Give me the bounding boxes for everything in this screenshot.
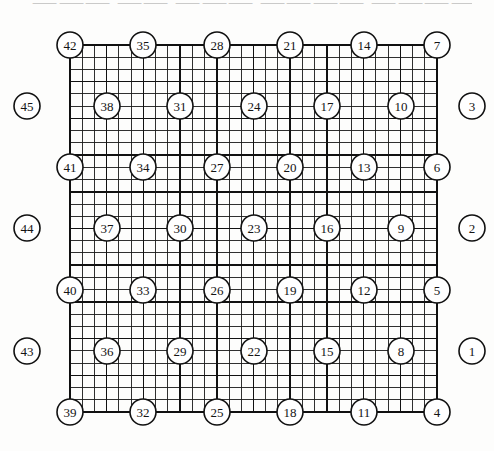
node-circle-11[interactable]: 11 bbox=[351, 399, 377, 425]
node-circle-label: 24 bbox=[248, 99, 262, 114]
node-circle-30[interactable]: 30 bbox=[167, 215, 193, 241]
node-circle-label: 18 bbox=[284, 405, 297, 420]
node-circle-18[interactable]: 18 bbox=[277, 399, 303, 425]
node-circle-33[interactable]: 33 bbox=[130, 277, 156, 303]
node-circle-13[interactable]: 13 bbox=[351, 154, 377, 180]
node-circle-12[interactable]: 12 bbox=[351, 277, 377, 303]
node-circle-25[interactable]: 25 bbox=[204, 399, 230, 425]
node-circle-label: 43 bbox=[21, 344, 34, 359]
node-circle-label: 3 bbox=[469, 99, 476, 114]
node-circle-4[interactable]: 4 bbox=[424, 399, 450, 425]
node-circle-label: 34 bbox=[137, 160, 151, 175]
node-circle-9[interactable]: 9 bbox=[388, 215, 414, 241]
node-circle-label: 14 bbox=[358, 38, 372, 53]
node-circle-21[interactable]: 21 bbox=[277, 32, 303, 58]
node-circle-45[interactable]: 45 bbox=[14, 93, 40, 119]
node-circle-label: 25 bbox=[211, 405, 224, 420]
node-circle-14[interactable]: 14 bbox=[351, 32, 377, 58]
node-circle-label: 31 bbox=[174, 99, 187, 114]
node-circle-29[interactable]: 29 bbox=[167, 338, 193, 364]
node-circle-34[interactable]: 34 bbox=[130, 154, 156, 180]
node-circle-label: 9 bbox=[398, 221, 405, 236]
node-circle-label: 37 bbox=[101, 221, 115, 236]
node-circle-label: 19 bbox=[284, 283, 297, 298]
node-circle-22[interactable]: 22 bbox=[241, 338, 267, 364]
node-circle-40[interactable]: 40 bbox=[57, 277, 83, 303]
node-circle-label: 17 bbox=[321, 99, 335, 114]
node-circle-31[interactable]: 31 bbox=[167, 93, 193, 119]
node-circle-43[interactable]: 43 bbox=[14, 338, 40, 364]
node-circle-label: 12 bbox=[358, 283, 371, 298]
node-circle-7[interactable]: 7 bbox=[424, 32, 450, 58]
node-circle-16[interactable]: 16 bbox=[314, 215, 340, 241]
node-circle-8[interactable]: 8 bbox=[388, 338, 414, 364]
node-circle-2[interactable]: 2 bbox=[459, 215, 485, 241]
node-circle-label: 27 bbox=[211, 160, 225, 175]
node-circle-label: 16 bbox=[321, 221, 335, 236]
node-circle-label: 40 bbox=[64, 283, 77, 298]
node-circle-44[interactable]: 44 bbox=[14, 215, 40, 241]
node-circle-38[interactable]: 38 bbox=[94, 93, 120, 119]
node-circle-label: 22 bbox=[248, 344, 261, 359]
node-circle-label: 33 bbox=[137, 283, 150, 298]
node-circle-27[interactable]: 27 bbox=[204, 154, 230, 180]
node-circle-label: 6 bbox=[434, 160, 441, 175]
node-circle-label: 29 bbox=[174, 344, 187, 359]
node-circle-label: 7 bbox=[434, 38, 441, 53]
node-circle-label: 30 bbox=[174, 221, 187, 236]
node-circle-label: 45 bbox=[21, 99, 34, 114]
node-circle-label: 32 bbox=[137, 405, 150, 420]
node-circle-42[interactable]: 42 bbox=[57, 32, 83, 58]
node-circle-label: 13 bbox=[358, 160, 371, 175]
node-circle-label: 39 bbox=[64, 405, 77, 420]
node-circle-label: 4 bbox=[434, 405, 441, 420]
node-circle-label: 41 bbox=[64, 160, 77, 175]
node-circle-label: 10 bbox=[395, 99, 408, 114]
node-circle-label: 35 bbox=[137, 38, 150, 53]
node-circle-label: 20 bbox=[284, 160, 297, 175]
node-circle-23[interactable]: 23 bbox=[241, 215, 267, 241]
node-circle-26[interactable]: 26 bbox=[204, 277, 230, 303]
node-circle-35[interactable]: 35 bbox=[130, 32, 156, 58]
node-circle-label: 5 bbox=[434, 283, 441, 298]
node-circle-5[interactable]: 5 bbox=[424, 277, 450, 303]
node-circle-41[interactable]: 41 bbox=[57, 154, 83, 180]
node-circle-label: 1 bbox=[469, 344, 476, 359]
lattice-diagram: 4235282114745383124171034134272013644373… bbox=[0, 0, 494, 451]
node-circle-label: 11 bbox=[358, 405, 371, 420]
node-circle-label: 26 bbox=[211, 283, 225, 298]
node-circle-20[interactable]: 20 bbox=[277, 154, 303, 180]
node-circle-39[interactable]: 39 bbox=[57, 399, 83, 425]
node-circle-label: 8 bbox=[398, 344, 405, 359]
node-circle-label: 36 bbox=[101, 344, 115, 359]
node-circle-label: 15 bbox=[321, 344, 334, 359]
node-circle-32[interactable]: 32 bbox=[130, 399, 156, 425]
node-circle-label: 28 bbox=[211, 38, 224, 53]
node-circle-37[interactable]: 37 bbox=[94, 215, 120, 241]
node-circle-label: 38 bbox=[101, 99, 114, 114]
node-circle-1[interactable]: 1 bbox=[459, 338, 485, 364]
node-circle-24[interactable]: 24 bbox=[241, 93, 267, 119]
node-circle-15[interactable]: 15 bbox=[314, 338, 340, 364]
node-circle-label: 42 bbox=[64, 38, 77, 53]
node-circle-19[interactable]: 19 bbox=[277, 277, 303, 303]
figure-root: ⸺⸺⸺ ⸺⸺ ⸺⸺⸺ ⸺⸺⸺⸺ ⸺⸺⸺⸺⸺ ⸺⸺⸺ ⸺⸺⸺ ⸺⸺ ⸺ 42352… bbox=[0, 0, 494, 451]
node-circle-label: 44 bbox=[21, 221, 35, 236]
node-circle-label: 2 bbox=[469, 221, 476, 236]
node-circle-10[interactable]: 10 bbox=[388, 93, 414, 119]
node-circle-36[interactable]: 36 bbox=[94, 338, 120, 364]
node-circle-6[interactable]: 6 bbox=[424, 154, 450, 180]
node-circle-label: 23 bbox=[248, 221, 261, 236]
node-circle-17[interactable]: 17 bbox=[314, 93, 340, 119]
node-circle-28[interactable]: 28 bbox=[204, 32, 230, 58]
node-circle-label: 21 bbox=[284, 38, 297, 53]
node-circle-3[interactable]: 3 bbox=[459, 93, 485, 119]
